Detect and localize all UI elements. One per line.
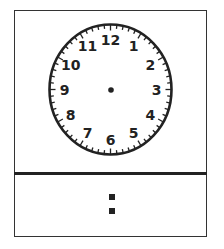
center-dot xyxy=(108,87,114,93)
hour-number-10: 10 xyxy=(61,57,81,73)
hour-number-4: 4 xyxy=(145,107,155,123)
hour-number-2: 2 xyxy=(145,57,155,73)
hour-number-5: 5 xyxy=(129,125,139,141)
hour-number-7: 7 xyxy=(83,125,93,141)
hour-number-3: 3 xyxy=(152,82,162,98)
hour-number-8: 8 xyxy=(66,107,76,123)
hour-number-6: 6 xyxy=(106,132,116,148)
colon-top-dot xyxy=(109,194,115,200)
digital-time-answer-box[interactable] xyxy=(14,175,207,237)
hour-number-12: 12 xyxy=(101,32,120,48)
colon-bottom-dot xyxy=(109,208,115,214)
hour-number-9: 9 xyxy=(60,82,70,98)
hour-number-11: 11 xyxy=(78,38,97,54)
hour-number-1: 1 xyxy=(129,38,139,54)
